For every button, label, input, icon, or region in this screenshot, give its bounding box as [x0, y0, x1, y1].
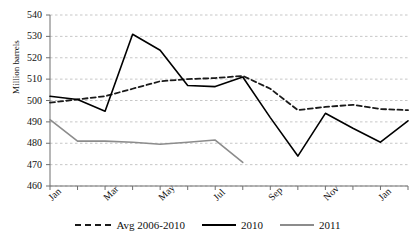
- legend-label: 2010: [241, 219, 263, 231]
- y-axis-ticks: [46, 15, 50, 186]
- chart-legend: Avg 2006-201020102011: [0, 219, 416, 231]
- chart-container: Million barrels 460470480490500510520530…: [0, 0, 416, 245]
- legend-label: 2011: [319, 219, 341, 231]
- legend-swatch-icon: [75, 224, 111, 226]
- legend-swatch-icon: [202, 224, 236, 226]
- x-axis-ticks: [50, 186, 408, 190]
- axis-lines: [50, 15, 408, 186]
- legend-swatch-icon: [280, 224, 314, 226]
- data-series-layer: [50, 34, 408, 162]
- legend-item[interactable]: Avg 2006-2010: [75, 219, 185, 231]
- legend-item[interactable]: 2011: [280, 219, 341, 231]
- plot-area: [0, 0, 416, 245]
- series-line: [50, 34, 408, 156]
- series-line: [50, 120, 243, 163]
- legend-item[interactable]: 2010: [202, 219, 263, 231]
- legend-label: Avg 2006-2010: [116, 219, 185, 231]
- gridlines: [50, 15, 408, 186]
